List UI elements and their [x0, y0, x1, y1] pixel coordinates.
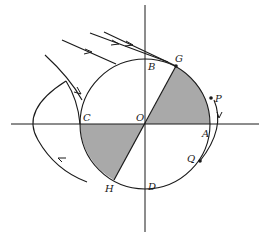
point-q-dot: [198, 159, 202, 163]
diagram-canvas: O A B C D G H P Q: [0, 0, 265, 243]
label-d: D: [147, 181, 156, 192]
label-g: G: [175, 53, 183, 64]
label-b: B: [147, 61, 155, 72]
label-h: H: [104, 183, 114, 194]
point-p-dot: [209, 96, 213, 100]
label-a: A: [201, 128, 209, 139]
point-g-dot: [174, 64, 178, 68]
label-p: P: [214, 93, 222, 104]
label-c: C: [83, 112, 91, 123]
arrow-head-left: [58, 158, 66, 162]
label-q: Q: [187, 153, 195, 164]
curved-streamline-c: [45, 55, 82, 100]
left-inner-curve: [66, 81, 80, 124]
shaded-sector-coh: [80, 124, 145, 180]
shaded-sector-aog: [145, 66, 210, 124]
label-o: O: [136, 112, 144, 123]
left-loop-curve: [33, 81, 87, 182]
streamline-3: [62, 40, 116, 64]
